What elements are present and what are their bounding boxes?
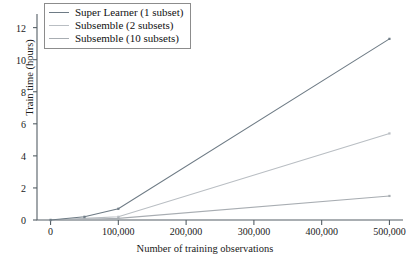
data-point-marker <box>117 208 119 210</box>
data-point-marker <box>388 38 390 40</box>
x-axis-tick-label: 400,000 <box>305 226 338 237</box>
legend-line-swatch-subsemble-2 <box>49 25 69 26</box>
x-axis-tick-label: 300,000 <box>238 226 271 237</box>
data-point-marker <box>388 132 390 134</box>
data-point-marker <box>83 216 85 218</box>
data-line <box>51 39 390 220</box>
data-point-marker <box>83 218 85 220</box>
legend: Super Learner (1 subset) Subsemble (2 su… <box>44 3 191 49</box>
x-axis-tick-label: 500,000 <box>373 226 406 237</box>
x-axis-tick-label: 200,000 <box>170 226 203 237</box>
legend-item: Super Learner (1 subset) <box>49 6 183 19</box>
data-point-marker <box>388 195 390 197</box>
legend-item: Subsemble (10 subsets) <box>49 32 183 45</box>
data-point-marker <box>49 219 51 221</box>
data-line <box>51 133 390 220</box>
legend-item: Subsemble (2 subsets) <box>49 19 183 32</box>
line-chart: Train time (hours) 024681012 Number of t… <box>0 0 410 261</box>
legend-line-swatch-super-learner <box>49 12 69 13</box>
legend-label: Subsemble (10 subsets) <box>75 32 179 45</box>
data-line <box>51 196 390 220</box>
x-axis-title: Number of training observations <box>0 243 410 254</box>
x-axis-tick-label: 0 <box>48 226 53 237</box>
legend-line-swatch-subsemble-10 <box>49 38 69 39</box>
x-axis-tick-label: 100,000 <box>102 226 135 237</box>
legend-label: Super Learner (1 subset) <box>75 6 183 19</box>
legend-label: Subsemble (2 subsets) <box>75 19 173 32</box>
data-point-marker <box>117 217 119 219</box>
